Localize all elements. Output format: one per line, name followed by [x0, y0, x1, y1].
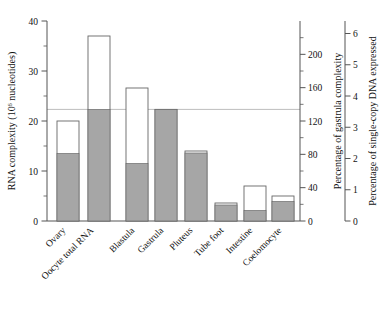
svg-text:Percentage of single-copy DNA: Percentage of single-copy DNA expressed: [367, 36, 378, 205]
right2-tick-6: 6: [353, 29, 358, 39]
right2-tick-2: 2: [353, 154, 358, 164]
svg-text:RNA complexity (106 nucleotide: RNA complexity (106 nucleotides): [6, 52, 19, 191]
right1-tick-80: 80: [308, 150, 318, 160]
left-tick-10: 10: [29, 167, 39, 177]
right1-tick-160: 160: [308, 83, 323, 93]
right2-tick-3: 3: [353, 123, 358, 133]
left-axis-title-main: RNA complexity (10: [6, 106, 18, 190]
bar-fill-tube-foot: [215, 205, 237, 221]
left-tick-20: 20: [29, 117, 39, 127]
bar-fill-pluteus: [185, 153, 207, 221]
svg-text:Percentage of gastrula complex: Percentage of gastrula complexity: [332, 53, 343, 189]
left-tick-40: 40: [29, 17, 39, 27]
chart-figure: 0 10 20 30 40 RNA complexity (106 nucleo…: [0, 0, 383, 314]
right2-tick-1: 1: [353, 185, 358, 195]
right1-tick-0: 0: [308, 217, 313, 227]
left-axis-title-tail: nucleotides): [6, 52, 18, 103]
right1-tick-120: 120: [308, 117, 323, 127]
left-axis-title: RNA complexity (106 nucleotides): [6, 52, 19, 191]
bar-fill-blastula: [126, 164, 148, 222]
right2-tick-4: 4: [353, 92, 358, 102]
bar-group-gastrula[interactable]: [155, 109, 177, 221]
right-axis-gastrula-title: Percentage of gastrula complexity: [332, 53, 343, 189]
chart-svg: 0 10 20 30 40 RNA complexity (106 nucleo…: [0, 0, 383, 314]
bar-group-oocyte-total-rna[interactable]: [88, 36, 110, 221]
left-tick-0: 0: [33, 217, 38, 227]
right1-tick-40: 40: [308, 183, 318, 193]
bar-fill-coelomocyte: [272, 202, 294, 222]
bar-group-coelomocyte[interactable]: [272, 196, 294, 221]
bar-group-ovary[interactable]: [57, 121, 79, 221]
bar-fill-oocyte: [88, 109, 110, 221]
right-axis-singlecopy-title: Percentage of single-copy DNA expressed: [367, 36, 378, 205]
bar-fill-intestine: [244, 211, 266, 222]
bar-fill-gastrula: [155, 109, 177, 221]
right2-tick-5: 5: [353, 60, 358, 70]
left-tick-30: 30: [29, 67, 39, 77]
bar-group-blastula[interactable]: [126, 88, 148, 221]
bar-fill-ovary: [57, 154, 79, 222]
bar-group-pluteus[interactable]: [185, 151, 207, 221]
bar-group-tube-foot[interactable]: [215, 203, 237, 221]
bar-group-intestine[interactable]: [244, 186, 266, 221]
right2-tick-0: 0: [353, 217, 358, 227]
right1-tick-200: 200: [308, 50, 323, 60]
